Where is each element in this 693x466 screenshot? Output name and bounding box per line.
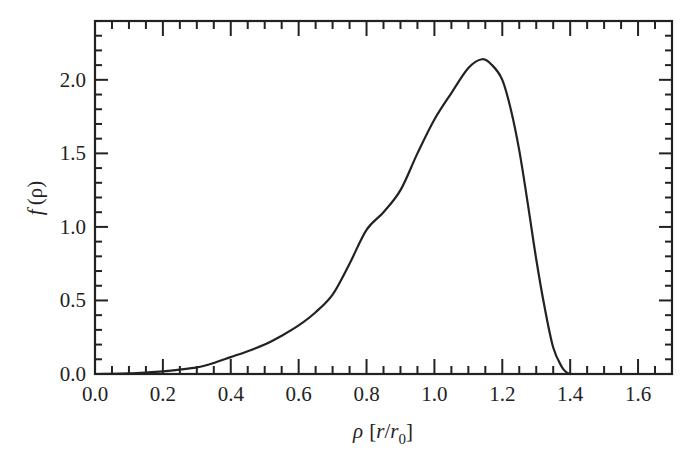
y-tick-label: 2.0 bbox=[60, 68, 86, 92]
y-axis-label-arg: (ρ) bbox=[23, 181, 47, 205]
x-tick-label: 0.4 bbox=[218, 382, 245, 406]
axis-tick-labels: 0.00.20.40.60.81.01.21.41.60.00.51.01.52… bbox=[60, 68, 651, 406]
x-axis-label-bracket-open: [ bbox=[369, 419, 376, 443]
data-line bbox=[95, 59, 570, 374]
plot-frame bbox=[95, 21, 672, 374]
x-tick-label: 0.2 bbox=[150, 382, 176, 406]
y-tick-label: 0.0 bbox=[60, 362, 86, 386]
x-tick-label: 0.6 bbox=[286, 382, 312, 406]
y-axis-label: f(ρ) bbox=[23, 181, 47, 215]
x-axis-label-bracket-close: ] bbox=[406, 419, 413, 443]
y-tick-label: 0.5 bbox=[60, 288, 86, 312]
x-tick-label: 1.2 bbox=[489, 382, 515, 406]
chart: 0.00.20.40.60.81.01.21.41.60.00.51.01.52… bbox=[0, 0, 693, 466]
x-axis-label-rho: ρ bbox=[352, 419, 363, 443]
axis-ticks bbox=[95, 21, 672, 374]
chart-canvas: 0.00.20.40.60.81.01.21.41.60.00.51.01.52… bbox=[0, 0, 693, 466]
x-axis-label-subscript: 0 bbox=[398, 431, 406, 447]
x-tick-label: 0.8 bbox=[353, 382, 379, 406]
x-tick-label: 1.0 bbox=[421, 382, 447, 406]
x-tick-label: 1.6 bbox=[625, 382, 651, 406]
x-tick-label: 1.4 bbox=[557, 382, 584, 406]
y-tick-label: 1.0 bbox=[60, 215, 86, 239]
x-axis-label: ρ[r/r0] bbox=[352, 419, 413, 447]
y-tick-label: 1.5 bbox=[60, 141, 86, 165]
y-axis-label-f: f bbox=[23, 206, 47, 215]
